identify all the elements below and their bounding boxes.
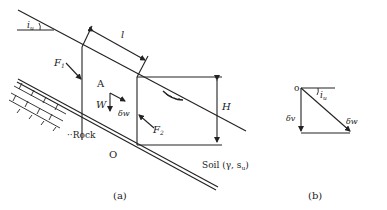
dimension-l-line	[93, 31, 145, 60]
label-origin-o: O	[109, 149, 117, 160]
label-hodograph-angle: iu	[320, 90, 327, 101]
label-force-f1: F1	[53, 57, 65, 69]
panel-b-labels: o iu δv δw (b)	[286, 83, 358, 201]
force-f2-arrow	[139, 115, 154, 128]
label-displacement: δw	[118, 109, 130, 118]
label-slope-angle: iu	[27, 20, 34, 31]
rock-hatching	[9, 83, 66, 131]
dimension-l-ext-left	[82, 26, 92, 47]
label-block-a: A	[96, 78, 105, 89]
label-soil: Soil (γ, su)	[202, 160, 249, 171]
displacement-arrow	[110, 93, 125, 101]
label-length-l: l	[121, 29, 124, 40]
label-hodograph-resultant: δw	[346, 117, 358, 126]
label-rock: ··Rock	[67, 130, 96, 140]
slope-stability-diagram: iu l F1 A W δw F2 H ··Rock O Soil (γ, su…	[0, 0, 387, 210]
rock-interface-lower	[17, 82, 216, 190]
label-force-f2: F2	[152, 124, 164, 136]
hodograph-angle-arc	[317, 88, 318, 95]
label-weight: W	[96, 99, 107, 110]
label-hodograph-origin: o	[294, 83, 299, 93]
label-height-h: H	[221, 101, 231, 112]
caption-a: (a)	[113, 190, 127, 201]
label-hodograph-vertical: δv	[286, 114, 296, 123]
rock-interface-upper	[18, 79, 218, 187]
slope-angle-arc	[39, 23, 40, 30]
caption-b: (b)	[308, 190, 322, 201]
force-f1-arrow	[66, 63, 81, 79]
ground-surface-line	[18, 10, 246, 131]
